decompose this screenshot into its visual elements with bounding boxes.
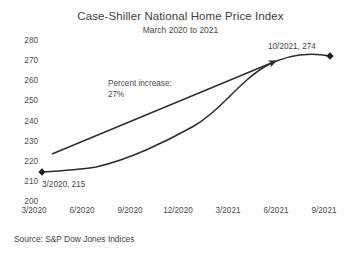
- annotation-percent-increase-line2: 27%: [108, 90, 172, 101]
- annotation-start-point: 3/2020, 215: [42, 180, 85, 191]
- chart-container: Case-Shiller National Home Price Index M…: [0, 0, 361, 259]
- chart-source-note: Source: S&P Dow Jones Indices: [14, 234, 134, 244]
- annotation-end-point: 10/2021, 274: [268, 42, 316, 53]
- annotation-percent-increase-line1: Percent increase:: [108, 79, 172, 90]
- percent-increase-arrow: [52, 61, 276, 154]
- plot-area: [0, 0, 361, 259]
- annotation-percent-increase: Percent increase: 27%: [108, 79, 172, 100]
- start-point-marker: [38, 168, 45, 176]
- end-point-marker: [326, 52, 333, 60]
- data-series-line: [42, 54, 330, 172]
